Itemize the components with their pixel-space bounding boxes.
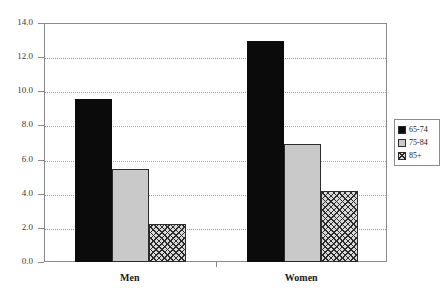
y-axis-label: 4.0 [0,189,33,198]
bar-women-85plus [321,191,358,262]
bar-chart: 0.02.04.06.08.010.012.014.0 MenWomen 65-… [0,0,446,297]
legend-swatch-85plus [398,152,406,160]
y-axis-label: 14.0 [0,18,33,27]
category-label-women: Women [241,272,361,283]
legend-swatch-75-84 [398,139,406,147]
gridline [45,58,386,59]
category-label-men: Men [70,272,190,283]
y-axis-tick [38,262,44,263]
category-axis-tick [216,262,217,267]
legend-item-75-84: 75-84 [398,137,436,148]
legend-item-65-74: 65-74 [398,124,436,135]
bar-men-75-84 [112,169,149,262]
bar-women-65-74 [247,41,284,262]
gridline [45,92,386,93]
bar-men-85plus [149,224,186,262]
legend-item-85plus: 85+ [398,150,436,161]
legend-label: 75-84 [409,138,428,147]
bar-men-65-74 [75,99,112,262]
legend-swatch-65-74 [398,126,406,134]
y-axis-label: 8.0 [0,120,33,129]
plot-area [44,23,387,262]
bar-women-75-84 [284,144,321,263]
legend-label: 65-74 [409,125,428,134]
y-axis-label: 2.0 [0,223,33,232]
legend: 65-7475-8485+ [394,119,440,166]
legend-label: 85+ [409,151,422,160]
y-axis-label: 0.0 [0,257,33,266]
y-axis-label: 6.0 [0,155,33,164]
y-axis-label: 12.0 [0,52,33,61]
y-axis-label: 10.0 [0,86,33,95]
